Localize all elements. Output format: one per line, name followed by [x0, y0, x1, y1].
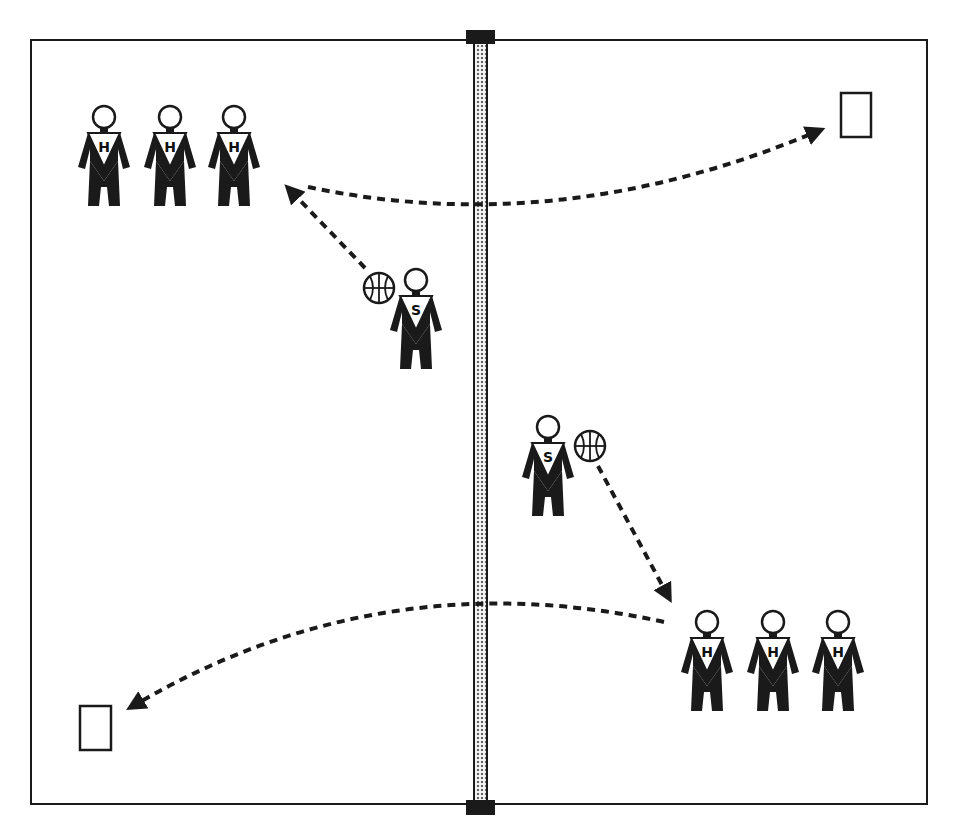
- hitter-figure: H: [747, 611, 799, 711]
- player-label: H: [767, 644, 779, 660]
- arrow-hit-to-right-target: [308, 131, 818, 204]
- player-label: S: [411, 302, 421, 318]
- setter-figure: S: [522, 416, 574, 516]
- net-post-top: [466, 30, 495, 44]
- net-band: [474, 40, 487, 804]
- player-label: S: [543, 449, 553, 465]
- head-icon: [405, 269, 427, 291]
- player-label: H: [701, 644, 713, 660]
- player-label: H: [98, 139, 110, 155]
- hitter-figure: H: [78, 106, 130, 206]
- ball-icon: [575, 431, 605, 461]
- head-icon: [93, 106, 115, 128]
- ball-icon: [364, 273, 394, 303]
- head-icon: [159, 106, 181, 128]
- volleyball-drill-diagram: HHHSSHHH: [0, 0, 956, 831]
- arrow-pass-to-right-hitters: [598, 466, 668, 596]
- target-marker: [841, 93, 871, 137]
- player-label: H: [832, 644, 844, 660]
- setter-figure: S: [390, 269, 442, 369]
- hitter-figure: H: [812, 611, 864, 711]
- arrow-pass-to-left-hitters: [290, 190, 365, 268]
- head-icon: [696, 611, 718, 633]
- arrow-hit-to-left-target: [133, 604, 664, 706]
- hitter-figure: H: [681, 611, 733, 711]
- hitter-figure: H: [144, 106, 196, 206]
- head-icon: [537, 416, 559, 438]
- head-icon: [827, 611, 849, 633]
- hitter-figure: H: [208, 106, 260, 206]
- target-marker: [80, 706, 111, 750]
- head-icon: [762, 611, 784, 633]
- net-post-bottom: [466, 800, 495, 815]
- player-label: H: [164, 139, 176, 155]
- player-label: H: [228, 139, 240, 155]
- head-icon: [223, 106, 245, 128]
- net: [466, 30, 495, 815]
